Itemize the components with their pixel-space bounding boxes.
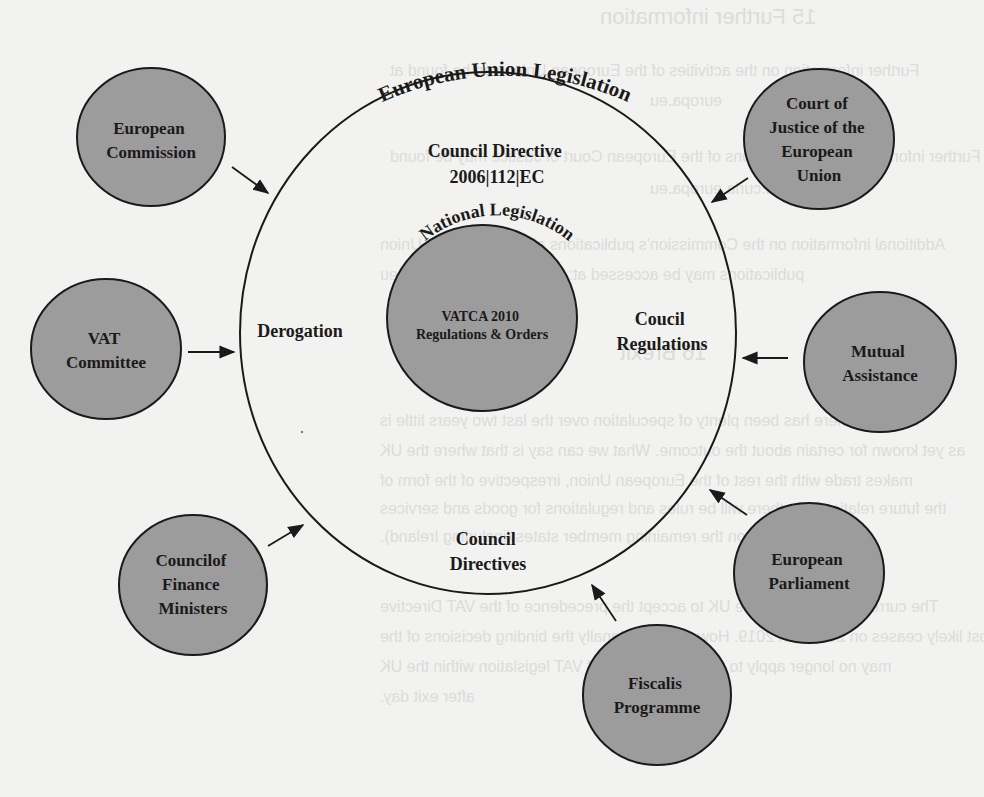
node-european-parliament: European Parliament	[734, 503, 884, 643]
svg-text:Councilof Finance: Councilof Finance Ministers	[155, 551, 230, 618]
node-fiscalis-programme: Fiscalis Programme	[583, 625, 731, 765]
node-vat-committee: VAT Committee	[31, 279, 181, 419]
node-european-commission: European Commission	[77, 68, 225, 206]
node-court-of-justice: Court of Justice of the European Union	[744, 69, 894, 209]
node-council-of-finance-ministers: Councilof Finance Ministers	[119, 515, 267, 655]
diagram-page: 15 Further information Further informati…	[0, 0, 984, 797]
arrow-commission	[232, 167, 268, 193]
derogation-label: Derogation	[257, 321, 343, 341]
scan-speck	[301, 431, 303, 433]
arrow-european-parliament	[710, 490, 747, 515]
council-regulations-label: Coucil Regulations	[616, 309, 707, 354]
eu-vat-legislation-diagram: European Union Legislation Council Direc…	[0, 0, 984, 797]
council-directive-label: Council Directive 2006|112|EC	[428, 141, 567, 187]
council-directives-label: Council Directives	[450, 529, 527, 574]
arrow-finance-ministers	[268, 525, 303, 546]
arrow-fiscalis	[592, 585, 616, 621]
node-mutual-assistance: Mutual Assistance	[804, 292, 956, 432]
arrow-court	[712, 178, 748, 202]
